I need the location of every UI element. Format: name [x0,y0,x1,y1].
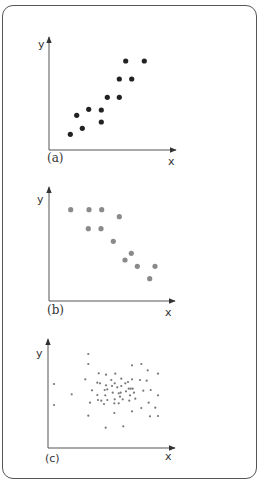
data-point [157,394,159,396]
data-point [96,394,98,396]
data-point [133,392,135,394]
data-point [86,107,91,112]
data-point [131,410,133,412]
x-axis-label: x [165,306,172,319]
data-point [139,379,141,381]
data-point [120,385,122,387]
data-point [91,389,93,391]
data-point [113,402,115,404]
plot-caption: (a) [47,151,64,165]
data-point [80,126,85,131]
data-point [120,378,122,380]
data-point [97,399,99,401]
data-point [99,382,101,384]
data-point [135,264,140,269]
data-point [87,353,89,355]
data-point [150,389,152,391]
data-point [154,407,156,409]
data-points [68,58,147,136]
data-point [147,369,149,371]
plot-caption: (b) [47,303,64,317]
data-point [98,372,100,374]
data-point [117,214,122,219]
data-point [127,381,129,383]
data-point [87,363,89,365]
data-point [122,398,124,400]
data-point [157,415,159,417]
data-point [98,226,103,231]
data-point [105,374,107,376]
data-points [68,207,157,281]
data-point [89,402,91,404]
data-point [131,378,133,380]
data-point [142,390,144,392]
x-axis-label: x [168,155,175,168]
data-point [86,207,91,212]
data-point [105,427,107,429]
data-point [53,404,55,406]
data-point [146,380,148,382]
plot-b: y x (b) [37,187,175,319]
data-point [142,58,147,63]
data-point [122,257,127,262]
data-point [71,393,73,395]
data-point [130,388,132,390]
data-point [99,119,104,124]
data-point [106,388,108,390]
data-point [120,392,122,394]
data-point [68,132,73,137]
data-point [99,107,104,112]
data-point [125,390,127,392]
data-point [117,76,122,81]
data-point [114,398,116,400]
data-points [53,353,159,429]
data-point [86,226,91,231]
data-point [157,373,159,375]
data-point [53,383,55,385]
data-point [104,389,106,391]
data-point [106,399,108,401]
y-axis-label: y [38,38,45,51]
data-point [118,392,120,394]
data-point [116,386,118,388]
data-point [87,415,89,417]
data-point [84,378,86,380]
data-point [148,402,150,404]
data-point [140,363,142,365]
data-point [99,207,104,212]
data-point [128,400,130,402]
data-point [123,58,128,63]
data-point [112,392,114,394]
data-point [129,394,131,396]
plot-caption: (c) [45,452,60,465]
data-point [114,373,116,375]
data-point [105,384,107,386]
data-point [105,95,110,100]
data-point [140,407,142,409]
plot-a: y x (a) [38,37,176,168]
data-point [128,388,130,390]
scatter-figure: y x (a) y x (b) y x (c) [0,0,267,482]
data-point [147,276,152,281]
data-point [100,400,102,402]
data-point [114,382,116,384]
data-point [134,398,136,400]
data-point [132,388,134,390]
data-point [117,95,122,100]
data-point [129,251,134,256]
data-point [119,396,121,398]
data-point [129,76,134,81]
y-axis-label: y [36,347,43,360]
data-point [103,403,105,405]
data-point [68,207,73,212]
data-point [131,364,133,366]
data-point [124,382,126,384]
y-axis-label: y [37,193,44,206]
data-point [96,382,98,384]
data-point [111,239,116,244]
data-point [104,394,106,396]
plot-c: y x (c) [36,339,175,465]
data-point [149,415,151,417]
x-axis-label: x [165,450,172,463]
data-point [152,264,157,269]
